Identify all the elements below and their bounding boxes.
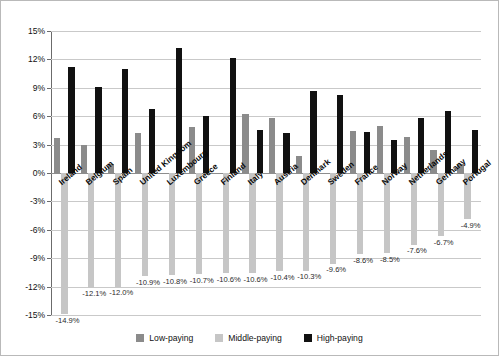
y-tick-label: -15% (1, 310, 45, 320)
negative-data-label: -4.9% (461, 221, 481, 230)
legend-label: Middle-paying (228, 333, 282, 343)
legend-label: Low-paying (149, 333, 193, 343)
legend-swatch-icon (136, 334, 144, 342)
bar-middle-paying-austria (276, 173, 282, 271)
negative-data-label: -10.7% (190, 276, 214, 285)
y-tick-label: 12% (1, 54, 45, 64)
gridline (51, 116, 481, 117)
gridline (51, 59, 481, 60)
gridline (51, 88, 481, 89)
bar-middle-paying-ireland (61, 173, 67, 314)
bar-low-paying-norway (377, 126, 383, 173)
negative-data-label: -10.4% (270, 273, 294, 282)
bar-low-paying-united-kingdom (135, 133, 141, 173)
legend-item[interactable]: Middle-paying (215, 333, 282, 343)
negative-data-label: -10.6% (217, 275, 241, 284)
gridline (51, 315, 481, 316)
chart-container: 15%12%9%6%3%0%-3%-6%-9%-12%-15% IrelandB… (0, 0, 499, 356)
negative-data-label: -8.6% (353, 256, 373, 265)
legend-item[interactable]: High-paying (304, 333, 363, 343)
bar-high-paying-italy (257, 130, 263, 173)
negative-data-label: -10.6% (244, 275, 268, 284)
bar-high-paying-finland (230, 58, 236, 173)
chart-legend: Low-payingMiddle-payingHigh-paying (1, 333, 498, 343)
bar-middle-paying-luxembourg (169, 173, 175, 275)
negative-data-label: -9.6% (326, 265, 346, 274)
y-tick-label: -6% (1, 225, 45, 235)
negative-data-label: -7.6% (407, 246, 427, 255)
bar-high-paying-ireland (68, 67, 74, 173)
negative-data-label: -6.7% (434, 238, 454, 247)
y-tick-label: -3% (1, 196, 45, 206)
legend-label: High-paying (317, 333, 363, 343)
negative-data-label: -12.0% (109, 288, 133, 297)
negative-data-label: -8.5% (380, 255, 400, 264)
gridline (51, 31, 481, 32)
bar-middle-paying-belgium (88, 173, 94, 288)
negative-data-label: -10.8% (163, 277, 187, 286)
bar-high-paying-spain (122, 69, 128, 173)
y-tick-label: 6% (1, 111, 45, 121)
negative-data-label: -10.3% (297, 272, 321, 281)
bar-high-paying-germany (445, 111, 451, 173)
y-tick-label: 15% (1, 26, 45, 36)
gridline (51, 145, 481, 146)
y-tick-label: 9% (1, 83, 45, 93)
bar-low-paying-ireland (54, 138, 60, 173)
bar-high-paying-united-kingdom (149, 109, 155, 173)
legend-swatch-icon (215, 334, 223, 342)
bar-high-paying-sweden (337, 95, 343, 173)
bar-middle-paying-spain (115, 173, 121, 287)
bar-middle-paying-italy (249, 173, 255, 273)
negative-data-label: -14.9% (55, 316, 79, 325)
y-tick-label: -12% (1, 282, 45, 292)
bar-high-paying-denmark (310, 91, 316, 173)
y-tick-label: -9% (1, 253, 45, 263)
bar-low-paying-austria (269, 118, 275, 173)
bar-middle-paying-greece (196, 173, 202, 274)
y-tick-label: 3% (1, 140, 45, 150)
bar-middle-paying-united-kingdom (142, 173, 148, 276)
bar-middle-paying-finland (223, 173, 229, 273)
legend-swatch-icon (304, 334, 312, 342)
bar-high-paying-belgium (95, 87, 101, 173)
y-tick-label: 0% (1, 168, 45, 178)
negative-data-label: -10.9% (136, 278, 160, 287)
legend-item[interactable]: Low-paying (136, 333, 193, 343)
bar-middle-paying-denmark (303, 173, 309, 271)
negative-data-label: -12.1% (82, 289, 106, 298)
